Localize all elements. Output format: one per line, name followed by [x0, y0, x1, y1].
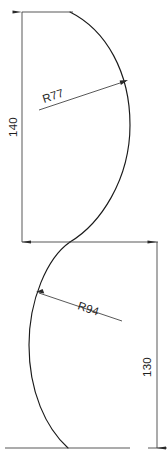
drawing-svg: 140 130 R77 R94	[0, 0, 167, 465]
leader-arrowhead-r77	[120, 80, 128, 85]
dimension-130: 130	[141, 242, 157, 448]
technical-drawing-canvas: 140 130 R77 R94	[0, 0, 167, 465]
radius-label-r94: R94	[76, 299, 101, 317]
dimension-label-140: 140	[7, 117, 19, 137]
lower-arc-r94	[29, 242, 70, 448]
dimension-140: 140	[7, 12, 22, 242]
dimension-label-130: 130	[141, 357, 153, 377]
upper-arc-r77	[70, 12, 130, 242]
radius-leader-r94: R94	[36, 289, 122, 321]
radius-leader-r77: R77	[39, 80, 128, 110]
profile-geometry	[29, 12, 130, 448]
